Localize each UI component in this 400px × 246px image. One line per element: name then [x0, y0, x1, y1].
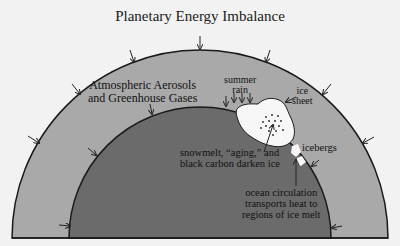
icebergs-label: icebergs	[302, 143, 337, 154]
summer-rain-line2: rain	[224, 85, 256, 95]
summer-rain-label: summer rain	[224, 75, 256, 95]
darken-line2: black carbon darken ice	[180, 158, 280, 169]
ocean-line1: ocean circulation	[242, 187, 320, 198]
ocean-circulation-label: ocean circulation transports heat to reg…	[242, 187, 320, 220]
ice-sheet-label: ice sheet	[292, 86, 313, 106]
ocean-line2: transports heat to	[242, 198, 320, 209]
ice-sheet-line2: sheet	[292, 96, 313, 106]
darken-line1: snowmelt, “aging,” and	[180, 147, 280, 158]
ocean-line3: regions of ice melt	[242, 209, 320, 220]
energy-imbalance-diagram	[0, 0, 400, 246]
atmosphere-label: Atmospheric Aerosols and Greenhouse Gase…	[88, 79, 197, 105]
diagram-canvas: Planetary Energy Imbalance Atmospheric A…	[0, 0, 400, 246]
darken-ice-label: snowmelt, “aging,” and black carbon dark…	[180, 147, 280, 169]
atmosphere-label-line2: and Greenhouse Gases	[88, 92, 197, 105]
diagram-title: Planetary Energy Imbalance	[0, 9, 400, 24]
